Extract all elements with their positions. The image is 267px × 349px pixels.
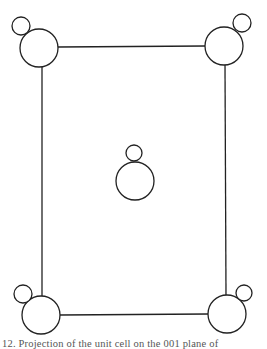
atom-group-center <box>116 145 154 200</box>
small-atom-circle <box>14 285 32 303</box>
large-atom-circle <box>116 162 154 200</box>
small-atom-circle <box>236 285 252 301</box>
unit-cell-projection-figure <box>0 0 267 349</box>
atom-group-top-left <box>12 17 58 67</box>
cell-edge-line <box>225 65 226 295</box>
atom-group-bottom-left <box>14 285 60 334</box>
large-atom-circle <box>20 29 58 67</box>
small-atom-circle <box>126 145 142 161</box>
figure-caption: 12. Projection of the unit cell on the 0… <box>0 337 267 349</box>
atom-group-bottom-right <box>208 285 252 333</box>
cell-edge-line <box>58 46 205 47</box>
large-atom-circle <box>205 27 243 65</box>
small-atom-circle <box>233 14 251 32</box>
cell-edge-line <box>60 314 208 315</box>
small-atom-circle <box>12 17 30 35</box>
atom-positions <box>12 14 252 334</box>
atom-group-top-right <box>205 14 251 65</box>
